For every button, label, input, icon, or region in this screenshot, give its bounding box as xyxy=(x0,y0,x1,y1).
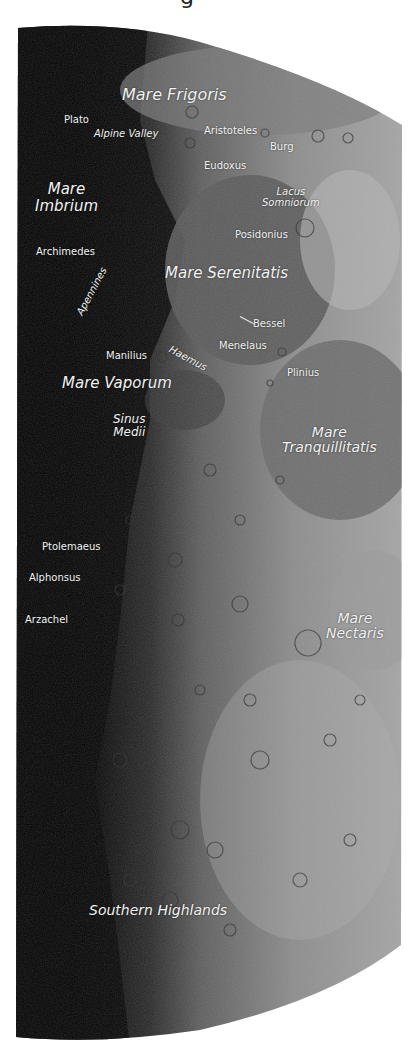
label-mare-frigoris: Mare Frigoris xyxy=(122,86,227,104)
label-mare-tranquillitatis-line2: Tranquillitatis xyxy=(282,440,377,455)
label-mare-imbrium: Mare Imbrium xyxy=(35,181,98,214)
label-lacus-somniorum: Lacus Somniorum xyxy=(262,186,320,208)
label-lacus-somniorum-line1: Lacus xyxy=(262,186,320,197)
label-mare-nectaris: Mare Nectaris xyxy=(326,611,384,642)
moon-image xyxy=(0,0,419,1048)
label-lacus-somniorum-line2: Somniorum xyxy=(262,197,320,208)
label-bessel: Bessel xyxy=(253,318,285,329)
label-manilius: Manilius xyxy=(106,350,147,361)
label-sinus-medii-line2: Medii xyxy=(113,426,145,439)
label-mare-imbrium-line2: Imbrium xyxy=(35,198,98,215)
label-plinius: Plinius xyxy=(287,367,319,378)
label-alphonsus: Alphonsus xyxy=(29,572,81,583)
label-posidonius: Posidonius xyxy=(235,229,288,240)
label-southern-highlands: Southern Highlands xyxy=(89,903,227,918)
label-menelaus: Menelaus xyxy=(219,340,267,351)
label-mare-nectaris-line2: Nectaris xyxy=(326,626,384,641)
label-eudoxus: Eudoxus xyxy=(204,160,246,171)
label-aristoteles: Aristoteles xyxy=(204,125,257,136)
label-plato: Plato xyxy=(64,114,89,125)
label-alpine-valley: Alpine Valley xyxy=(94,128,158,139)
label-mare-vaporum: Mare Vaporum xyxy=(62,375,172,392)
label-arzachel: Arzachel xyxy=(25,614,68,625)
label-mare-tranquillitatis: Mare Tranquillitatis xyxy=(282,425,377,456)
label-sinus-medii: Sinus Medii xyxy=(113,413,145,439)
label-mare-imbrium-line1: Mare xyxy=(35,181,98,198)
label-burg: Burg xyxy=(270,141,293,152)
label-ptolemaeus: Ptolemaeus xyxy=(42,541,101,552)
label-mare-serenitatis: Mare Serenitatis xyxy=(165,265,288,282)
label-archimedes: Archimedes xyxy=(36,246,95,257)
